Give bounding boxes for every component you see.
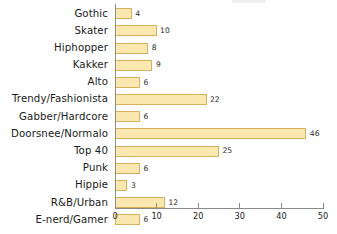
bar-container: 9: [115, 58, 161, 73]
bar-value-label: 3: [131, 182, 136, 190]
bar-row: Hiphopper8: [0, 40, 337, 55]
plot-area: Gothic4Skater10Hiphopper8Kakker9Alto6Tre…: [0, 0, 337, 234]
x-axis-line: [115, 208, 324, 209]
bar-container: 4: [115, 6, 140, 21]
x-tick-label: 20: [193, 211, 203, 221]
x-tick: [323, 203, 324, 208]
category-label: Gabber/Hardcore: [0, 112, 108, 122]
bar: [115, 43, 148, 54]
bar-container: 22: [115, 92, 220, 107]
bar-value-label: 25: [223, 147, 233, 155]
x-tick-label: 0: [112, 211, 117, 221]
bar: [115, 25, 157, 36]
x-tick: [156, 203, 157, 208]
bar: [115, 94, 207, 105]
category-label: R&B/Urban: [0, 198, 108, 208]
x-tick: [239, 203, 240, 208]
x-tick-label: 30: [235, 211, 245, 221]
bar-container: 6: [115, 212, 148, 227]
category-label: Punk: [0, 163, 108, 173]
bar: [115, 60, 152, 71]
category-label: E-nerd/Gamer: [0, 215, 108, 225]
bar-value-label: 8: [152, 44, 157, 52]
bar-chart: Gothic4Skater10Hiphopper8Kakker9Alto6Tre…: [0, 0, 337, 234]
bar-rows: Gothic4Skater10Hiphopper8Kakker9Alto6Tre…: [0, 6, 337, 229]
x-tick: [198, 203, 199, 208]
bar: [115, 197, 165, 208]
bar-row: Doorsnee/Normalo46: [0, 126, 337, 141]
bar-row: Top 4025: [0, 144, 337, 159]
bar: [115, 146, 219, 157]
category-label: Trendy/Fashionista: [0, 94, 108, 104]
bar-row: Punk6: [0, 161, 337, 176]
x-tick: [281, 203, 282, 208]
bar-container: 6: [115, 109, 148, 124]
category-label: Skater: [0, 26, 108, 36]
category-label: Kakker: [0, 60, 108, 70]
bar-container: 6: [115, 75, 148, 90]
bar: [115, 163, 140, 174]
bar: [115, 180, 127, 191]
bar-value-label: 10: [160, 27, 170, 35]
bar: [115, 77, 140, 88]
bar-row: Trendy/Fashionista22: [0, 92, 337, 107]
bar: [115, 128, 306, 139]
category-label: Top 40: [0, 146, 108, 156]
bar-value-label: 6: [143, 165, 148, 173]
bar-container: 8: [115, 40, 157, 55]
bar-container: 3: [115, 178, 136, 193]
category-label: Hiphopper: [0, 43, 108, 53]
bar: [115, 111, 140, 122]
x-tick-label: 50: [318, 211, 328, 221]
bar-container: 25: [115, 144, 232, 159]
category-label: Gothic: [0, 9, 108, 19]
x-tick-label: 40: [276, 211, 286, 221]
bar-row: Kakker9: [0, 58, 337, 73]
x-tick: [115, 203, 116, 208]
bar-value-label: 12: [168, 199, 178, 207]
bar-row: Gothic4: [0, 6, 337, 21]
bar-row: Alto6: [0, 75, 337, 90]
bar-container: 10: [115, 23, 170, 38]
scan-artifact: [232, 0, 266, 3]
bar-value-label: 46: [310, 130, 320, 138]
bar-container: 6: [115, 161, 148, 176]
bar-value-label: 4: [135, 10, 140, 18]
bar-value-label: 6: [143, 113, 148, 121]
y-axis-line: [115, 4, 116, 208]
category-label: Alto: [0, 77, 108, 87]
bar: [115, 8, 132, 19]
x-tick-label: 10: [151, 211, 161, 221]
bar-value-label: 6: [143, 216, 148, 224]
bar: [115, 214, 140, 225]
bar-value-label: 9: [156, 61, 161, 69]
bar-row: Gabber/Hardcore6: [0, 109, 337, 124]
bar-value-label: 22: [210, 96, 220, 104]
category-label: Doorsnee/Normalo: [0, 129, 108, 139]
bar-container: 46: [115, 126, 320, 141]
bar-row: Hippie3: [0, 178, 337, 193]
category-label: Hippie: [0, 180, 108, 190]
bar-row: Skater10: [0, 23, 337, 38]
bar-value-label: 6: [143, 79, 148, 87]
